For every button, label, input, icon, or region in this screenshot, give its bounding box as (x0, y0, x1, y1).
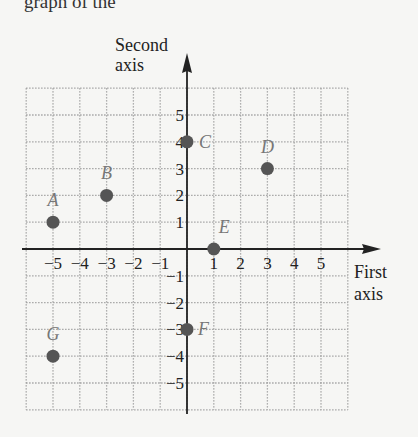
data-point-b: B (100, 163, 113, 202)
point-label: F (197, 319, 210, 339)
data-point-g: G (47, 324, 60, 363)
y-tick-label: −5 (166, 374, 184, 393)
data-point-d: D (260, 137, 274, 176)
y-tick-label: −2 (166, 294, 184, 313)
point-marker (261, 162, 274, 175)
x-axis-title-line1: First (354, 262, 387, 282)
point-label: G (47, 324, 60, 344)
caption-fragment: graph of the (24, 0, 116, 12)
x-tick-label: −2 (124, 254, 142, 273)
coordinate-plane-figure: graph of the −5−4−3−2−112345−5−4−3−2−112… (0, 0, 418, 437)
x-tick-label: −5 (44, 254, 62, 273)
data-point-c: C (181, 132, 213, 152)
x-axis-title-line2: axis (354, 284, 383, 304)
x-tick-label: 2 (236, 254, 245, 273)
point-marker (47, 216, 60, 229)
point-marker (100, 189, 113, 202)
y-tick-label: 1 (176, 213, 185, 232)
y-tick-label: 5 (176, 106, 185, 125)
x-tick-label: 4 (290, 254, 299, 273)
y-tick-label: 3 (176, 160, 185, 179)
y-tick-label: −4 (166, 347, 185, 366)
caption: graph of the (24, 0, 116, 12)
point-marker (207, 243, 220, 256)
point-marker (47, 350, 60, 363)
y-tick-label: 2 (176, 186, 185, 205)
point-marker (181, 135, 194, 148)
x-tick-label: 1 (210, 254, 219, 273)
x-tick-label: 5 (317, 254, 326, 273)
point-label: B (101, 163, 112, 183)
point-marker (181, 323, 194, 336)
y-axis-title-line2: axis (115, 55, 144, 75)
x-tick-label: 3 (263, 254, 272, 273)
data-point-a: A (47, 190, 60, 229)
point-label: D (260, 137, 274, 157)
y-axis-title-line1: Second (115, 35, 168, 55)
x-axis-arrow-icon (362, 244, 381, 254)
point-label: C (199, 132, 212, 152)
y-tick-label: −1 (166, 267, 184, 286)
y-axis-arrow-icon (182, 53, 192, 73)
x-tick-label: −4 (71, 254, 90, 273)
axes (22, 53, 381, 414)
point-label: E (218, 217, 230, 237)
point-label: A (47, 190, 60, 210)
x-tick-label: −3 (98, 254, 116, 273)
coordinate-plane: graph of the −5−4−3−2−112345−5−4−3−2−112… (0, 0, 418, 437)
